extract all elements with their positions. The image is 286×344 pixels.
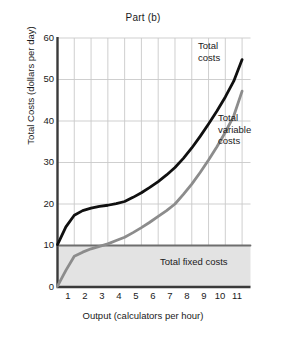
total-variable-costs-annotation: Total variable costs — [218, 112, 276, 147]
plot-area — [0, 0, 286, 344]
total-costs-annotation: Total costs — [198, 40, 242, 63]
total-costs-annotation-line2: costs — [198, 52, 242, 64]
total-variable-costs-annotation-line1: Total — [218, 112, 276, 124]
total-variable-costs-annotation-line3: costs — [218, 135, 276, 147]
total-costs-annotation-line1: Total — [198, 40, 242, 52]
total-variable-costs-annotation-line2: variable — [218, 124, 276, 136]
chart-container: Part (b) Total Costs (dollars per day) O… — [0, 0, 286, 344]
total-fixed-costs-annotation: Total fixed costs — [160, 256, 250, 268]
